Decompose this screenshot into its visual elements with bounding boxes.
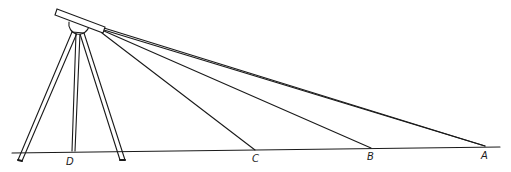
tripod: [18, 32, 125, 161]
tripod-leg-right-outer: [84, 33, 125, 160]
sight-ray-to-b: [104, 31, 371, 148]
tripod-leg-left-outer: [18, 32, 72, 160]
sight-ray-to-a-upper: [104, 28, 485, 146]
point-label-c: C: [252, 154, 259, 164]
point-label-a: A: [481, 151, 488, 161]
surveying-diagram: [0, 0, 511, 172]
point-label-d: D: [66, 157, 74, 167]
tripod-leg-left-inner: [22, 33, 77, 161]
tripod-leg-right-inner: [80, 34, 120, 160]
point-label-b: B: [367, 152, 374, 162]
tripod-leg-left-foot: [18, 160, 22, 161]
